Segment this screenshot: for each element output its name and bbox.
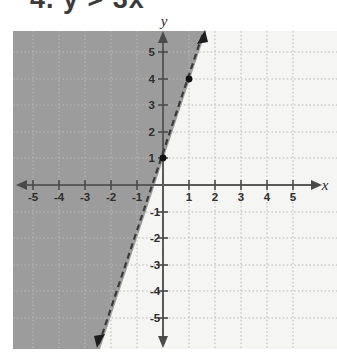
x-tick-label: -4 <box>54 191 65 203</box>
y-tick-label: -5 <box>150 312 161 324</box>
x-tick-label: 1 <box>186 191 193 203</box>
x-tick-label: -3 <box>80 191 90 203</box>
y-tick-label: 1 <box>149 152 156 164</box>
x-tick-label: 3 <box>238 191 244 203</box>
y-tick-label: -4 <box>150 285 161 297</box>
plotted-point-1-4 <box>186 76 193 83</box>
y-tick-label: 3 <box>149 99 155 111</box>
y-tick-label: -3 <box>150 259 160 271</box>
x-tick-label: 5 <box>290 191 297 203</box>
x-tick-label: -5 <box>28 191 39 203</box>
y-tick-label: 4 <box>149 73 156 85</box>
y-tick-label: 2 <box>149 126 155 138</box>
x-tick-label: -1 <box>132 191 143 203</box>
y-tick-label: -1 <box>150 206 161 218</box>
graph-container: -5 -4 -3 -2 -1 1 2 3 4 5 5 4 3 2 1 -1 -2… <box>0 0 337 353</box>
x-tick-label: 2 <box>212 191 218 203</box>
plotted-point-0-1 <box>160 155 167 162</box>
y-axis-label: y <box>159 13 168 29</box>
y-tick-label: 5 <box>149 46 156 58</box>
x-tick-label: -2 <box>106 191 116 203</box>
x-axis-label: x <box>321 177 329 193</box>
coordinate-plane-graph: -5 -4 -3 -2 -1 1 2 3 4 5 5 4 3 2 1 -1 -2… <box>0 0 337 353</box>
x-tick-label: 4 <box>264 191 271 203</box>
y-tick-label: -2 <box>150 232 160 244</box>
worksheet-page: 4. y > 3x <box>0 0 337 353</box>
